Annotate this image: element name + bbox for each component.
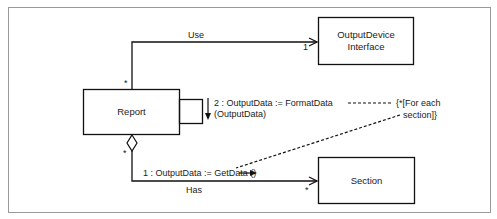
output-device-label-line1: OutputDevice <box>337 29 395 40</box>
has-to-multiplicity: * <box>305 185 309 195</box>
aggregation-diamond-icon <box>127 135 137 151</box>
has-from-multiplicity: * <box>123 148 127 158</box>
class-output-device-interface[interactable]: OutputDevice Interface <box>319 18 414 65</box>
use-from-multiplicity: * <box>124 78 128 88</box>
use-to-multiplicity: 1 <box>303 42 308 52</box>
section-label: Section <box>351 175 383 186</box>
class-report[interactable]: Report <box>84 90 180 135</box>
self-message-line1: 2 : OutputData := FormatData <box>214 98 333 108</box>
self-message-arrow-icon <box>205 98 211 120</box>
has-association: * Has * <box>123 135 317 195</box>
use-label: Use <box>188 30 204 40</box>
output-device-label-line2: Interface <box>348 41 385 52</box>
note-line2: section]} <box>403 110 437 120</box>
report-label: Report <box>117 106 146 117</box>
self-message-line2: (OutputData) <box>214 109 266 119</box>
use-association: Use * 1 <box>124 30 317 89</box>
self-loop <box>180 100 203 124</box>
has-label: Has <box>186 185 203 195</box>
uml-collaboration-diagram: Use * 1 Report 2 : OutputData := FormatD… <box>0 0 497 219</box>
class-section[interactable]: Section <box>319 158 415 204</box>
note-line1: {*[For each <box>396 98 441 108</box>
